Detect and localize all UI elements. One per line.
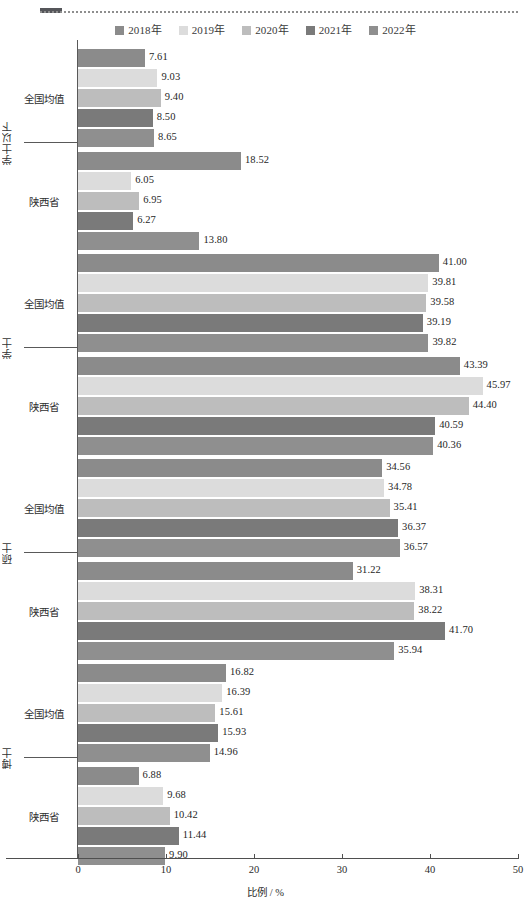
bar[interactable] (78, 459, 382, 477)
bar[interactable] (78, 377, 483, 395)
bar-stack: 7.619.039.408.508.65 (78, 48, 531, 148)
bar-value-label: 36.57 (404, 541, 428, 552)
bar[interactable] (78, 212, 133, 230)
bar[interactable] (78, 499, 390, 517)
bar-row[interactable]: 7.61 (78, 48, 531, 68)
value-axis-tick-label: 20 (249, 864, 260, 875)
bar[interactable] (78, 622, 445, 640)
bar-row[interactable]: 16.82 (78, 663, 531, 683)
bar[interactable] (78, 129, 154, 147)
bar-row[interactable]: 39.19 (78, 313, 531, 333)
bar[interactable] (78, 744, 210, 762)
bar[interactable] (78, 69, 157, 87)
bar[interactable] (78, 767, 139, 785)
bar-row[interactable]: 43.39 (78, 356, 531, 376)
bar-row[interactable]: 11.44 (78, 826, 531, 846)
bar-row[interactable]: 15.61 (78, 703, 531, 723)
bar-value-label: 38.31 (419, 584, 443, 595)
bar-row[interactable]: 36.37 (78, 518, 531, 538)
bar[interactable] (78, 787, 163, 805)
bar[interactable] (78, 192, 139, 210)
bar-value-label: 10.42 (174, 809, 198, 820)
bar[interactable] (78, 417, 435, 435)
bar-stack: 31.2238.3138.2241.7035.94 (78, 561, 531, 661)
bar-row[interactable]: 38.22 (78, 601, 531, 621)
bar-row[interactable]: 8.65 (78, 128, 531, 148)
bar[interactable] (78, 724, 218, 742)
legend-label: 2019年 (192, 25, 226, 36)
bar-value-label: 11.44 (183, 829, 207, 840)
bar-row[interactable]: 39.82 (78, 333, 531, 353)
bar-row[interactable]: 15.93 (78, 723, 531, 743)
bar-row[interactable]: 40.59 (78, 416, 531, 436)
bar[interactable] (78, 539, 400, 557)
bar[interactable] (78, 314, 423, 332)
bar[interactable] (78, 562, 353, 580)
bar-row[interactable]: 41.70 (78, 621, 531, 641)
bar-row[interactable]: 6.95 (78, 191, 531, 211)
bar-row[interactable]: 6.88 (78, 766, 531, 786)
legend-item[interactable]: 2019年 (179, 25, 226, 36)
bar[interactable] (78, 582, 415, 600)
bar-row[interactable]: 8.50 (78, 108, 531, 128)
bar[interactable] (78, 334, 428, 352)
bar[interactable] (78, 109, 153, 127)
bar[interactable] (78, 664, 226, 682)
bar-row[interactable]: 6.05 (78, 171, 531, 191)
bar-row[interactable]: 41.00 (78, 253, 531, 273)
bar-row[interactable]: 44.40 (78, 396, 531, 416)
bar[interactable] (78, 274, 428, 292)
bar-row[interactable]: 10.42 (78, 806, 531, 826)
bar-row[interactable]: 39.58 (78, 293, 531, 313)
chart-subgroup: 陕西省31.2238.3138.2241.7035.94 (0, 561, 531, 671)
bar-row[interactable]: 34.56 (78, 458, 531, 478)
legend-item[interactable]: 2022年 (369, 25, 416, 36)
bar-value-label: 18.52 (245, 154, 269, 165)
bar-row[interactable]: 9.03 (78, 68, 531, 88)
bar[interactable] (78, 602, 414, 620)
subgroup-label: 全国均值 (12, 296, 76, 311)
legend-item[interactable]: 2018年 (115, 25, 162, 36)
bar-row[interactable]: 36.57 (78, 538, 531, 558)
bar[interactable] (78, 704, 215, 722)
legend-swatch-icon (369, 26, 378, 35)
bar[interactable] (78, 519, 398, 537)
chart-plot-area: 学士以下全国均值7.619.039.408.508.65陕西省18.526.05… (0, 40, 531, 870)
bar-row[interactable]: 14.96 (78, 743, 531, 763)
bar[interactable] (78, 89, 161, 107)
bar-value-label: 38.22 (418, 604, 442, 615)
chart-group: 博士全国均值16.8216.3915.6115.9314.96陕西省6.889.… (0, 655, 531, 860)
bar-value-label: 6.05 (135, 174, 154, 185)
bar-row[interactable]: 39.81 (78, 273, 531, 293)
bar[interactable] (78, 827, 179, 845)
bar[interactable] (78, 152, 241, 170)
bar-row[interactable]: 9.68 (78, 786, 531, 806)
chart-group: 硕士全国均值34.5634.7835.4136.3736.57陕西省31.223… (0, 450, 531, 655)
legend-item[interactable]: 2020年 (242, 25, 289, 36)
bar[interactable] (78, 479, 384, 497)
bar-row[interactable]: 16.39 (78, 683, 531, 703)
bar[interactable] (78, 172, 131, 190)
bar-row[interactable]: 34.78 (78, 478, 531, 498)
bar-row[interactable]: 38.31 (78, 581, 531, 601)
bar-row[interactable]: 35.41 (78, 498, 531, 518)
bar[interactable] (78, 294, 426, 312)
legend-swatch-icon (306, 26, 315, 35)
bar-value-label: 15.93 (222, 726, 246, 737)
value-axis-tick (166, 854, 167, 859)
bar-row[interactable]: 9.40 (78, 88, 531, 108)
bar[interactable] (78, 807, 170, 825)
bar-row[interactable]: 45.97 (78, 376, 531, 396)
bar-row[interactable]: 18.52 (78, 151, 531, 171)
legend-item[interactable]: 2021年 (306, 25, 353, 36)
bar[interactable] (78, 397, 469, 415)
bar[interactable] (78, 49, 145, 67)
bar-value-label: 14.96 (214, 746, 238, 757)
bar-value-label: 39.58 (430, 296, 454, 307)
bar[interactable] (78, 357, 460, 375)
bar[interactable] (78, 254, 439, 272)
bar[interactable] (78, 684, 222, 702)
bar-row[interactable]: 31.22 (78, 561, 531, 581)
legend-swatch-icon (115, 26, 124, 35)
bar-row[interactable]: 6.27 (78, 211, 531, 231)
